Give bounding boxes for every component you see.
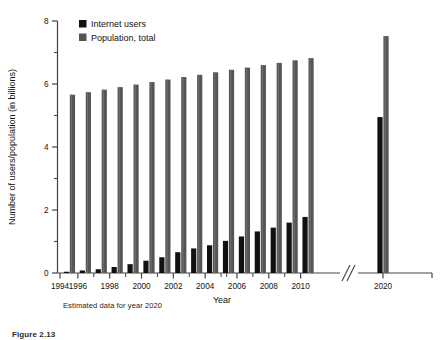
bar-population-highlight-1995 xyxy=(71,95,72,273)
bar-population-highlight-2008 xyxy=(278,63,279,273)
x-tick-label-2006: 2006 xyxy=(228,282,247,291)
bar-internet-users-1996 xyxy=(80,270,85,273)
y-tick-label-6: 6 xyxy=(44,80,49,89)
legend-label-internet-users: Internet users xyxy=(91,19,147,29)
bar-population-2006 xyxy=(245,68,250,273)
y-tick-label-8: 8 xyxy=(44,17,49,26)
bar-population-highlight-2001 xyxy=(166,80,167,273)
bar-population-highlight-1997 xyxy=(103,90,104,273)
bar-internet-users-2020 xyxy=(377,117,382,273)
bar-population-highlight-1996 xyxy=(87,92,88,273)
bar-population-2001 xyxy=(165,80,170,273)
bar-internet-users-2002 xyxy=(175,252,180,273)
bar-population-highlight-2009 xyxy=(294,60,295,273)
bar-population-2005 xyxy=(229,70,234,273)
bar-population-highlight-2002 xyxy=(182,77,183,273)
bar-population-2003 xyxy=(197,75,202,273)
bar-population-highlight-2020 xyxy=(385,36,386,273)
bar-internet-users-2008 xyxy=(271,228,276,273)
y-tick-label-4: 4 xyxy=(44,143,49,152)
bar-population-highlight-2000 xyxy=(150,82,151,273)
bar-population-highlight-1998 xyxy=(119,87,120,273)
x-tick-label-1994: 1994 xyxy=(51,282,70,291)
bar-population-1998 xyxy=(118,87,123,273)
bar-population-highlight-2007 xyxy=(262,65,263,273)
bar-population-highlight-2003 xyxy=(198,75,199,273)
bar-population-2002 xyxy=(181,77,186,273)
bar-population-2004 xyxy=(213,72,218,273)
bars-group xyxy=(64,36,389,273)
bar-population-2020 xyxy=(383,36,388,273)
x-tick-label-2020: 2020 xyxy=(374,282,393,291)
x-axis-label: Year xyxy=(213,295,231,305)
legend-swatch-population xyxy=(79,34,87,42)
bar-population-2008 xyxy=(277,63,282,273)
bar-internet-users-2007 xyxy=(255,231,260,273)
bar-population-1995 xyxy=(70,95,75,273)
y-axis-label: Number of users/population (in billions) xyxy=(7,69,17,225)
x-tick-label-2008: 2008 xyxy=(260,282,279,291)
bar-population-highlight-2004 xyxy=(214,72,215,273)
bar-internet-users-2010 xyxy=(302,217,307,273)
figure-number-label: Figure 2.13 xyxy=(12,330,55,339)
legend-label-population: Population, total xyxy=(91,33,156,43)
bar-internet-users-2001 xyxy=(159,257,164,273)
bar-population-2000 xyxy=(149,82,154,273)
x-tick-label-1996: 1996 xyxy=(69,282,88,291)
x-axis-break-marks xyxy=(342,265,355,281)
figure-container: 02468Number of users/population (in bill… xyxy=(0,0,448,340)
x-tick-label-2002: 2002 xyxy=(164,282,183,291)
bar-population-highlight-2005 xyxy=(230,70,231,273)
bar-internet-users-1998 xyxy=(112,267,117,273)
y-tick-label-2: 2 xyxy=(44,206,49,215)
bar-population-highlight-1999 xyxy=(135,85,136,273)
bar-population-highlight-2010 xyxy=(310,58,311,273)
x-tick-label-1998: 1998 xyxy=(101,282,120,291)
bar-internet-users-2000 xyxy=(143,261,148,273)
bar-internet-users-2003 xyxy=(191,248,196,273)
bar-population-1997 xyxy=(102,90,107,273)
bar-internet-users-1997 xyxy=(96,269,101,273)
bar-internet-users-1999 xyxy=(127,264,132,273)
x-tick-label-2004: 2004 xyxy=(196,282,215,291)
bar-internet-users-2004 xyxy=(207,245,212,273)
estimated-data-note: Estimated data for year 2020 xyxy=(63,301,162,310)
bar-population-1996 xyxy=(86,92,91,273)
bar-population-highlight-2006 xyxy=(246,68,247,273)
bar-population-2007 xyxy=(261,65,266,273)
bar-internet-users-2009 xyxy=(287,223,292,273)
y-tick-label-0: 0 xyxy=(44,269,49,278)
x-tick-label-2000: 2000 xyxy=(132,282,151,291)
legend: Internet usersPopulation, total xyxy=(79,19,156,43)
bar-chart: 02468Number of users/population (in bill… xyxy=(0,0,448,340)
bar-population-2010 xyxy=(308,58,313,273)
x-tick-label-2010: 2010 xyxy=(291,282,310,291)
bar-internet-users-2005 xyxy=(223,241,228,273)
bar-internet-users-1995 xyxy=(64,272,69,273)
bar-population-1999 xyxy=(133,85,138,273)
bar-internet-users-2006 xyxy=(239,236,244,273)
legend-swatch-internet-users xyxy=(79,20,87,28)
bar-population-2009 xyxy=(293,60,298,273)
